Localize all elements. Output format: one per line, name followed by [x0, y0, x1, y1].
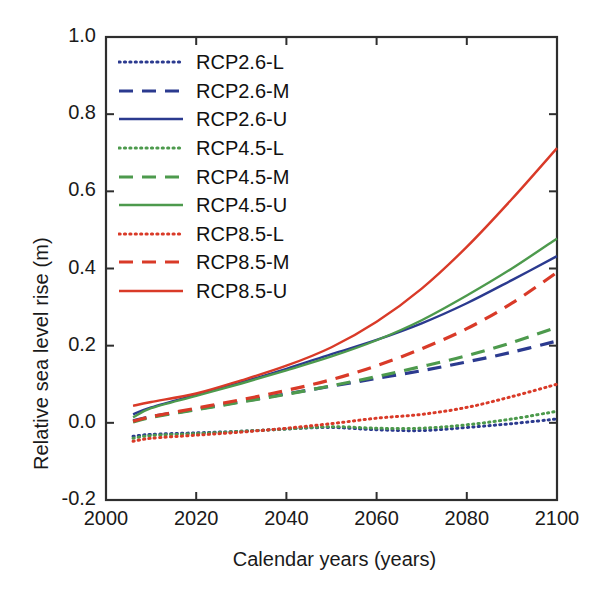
x-tick-label: 2080 [427, 507, 507, 530]
x-tick-label: 2060 [337, 507, 417, 530]
legend-label: RCP2.6-M [196, 81, 289, 101]
legend-line-swatch [118, 284, 184, 298]
legend-label: RCP4.5-U [196, 195, 287, 215]
legend-label: RCP4.5-M [196, 167, 289, 187]
x-axis-title: Calendar years (years) [0, 548, 613, 571]
y-tick-label: 0.4 [68, 256, 96, 279]
legend-label: RCP8.5-U [196, 281, 287, 301]
legend-item[interactable]: RCP2.6-L [118, 48, 289, 77]
figure-container: Relative sea level rise (m) Calendar yea… [0, 0, 613, 606]
legend-line-swatch [118, 141, 184, 155]
legend-line-swatch [118, 198, 184, 212]
y-tick-label: 1.0 [68, 24, 96, 47]
y-tick-label: 0.2 [68, 333, 96, 356]
legend-item[interactable]: RCP4.5-U [118, 191, 289, 220]
legend-line-swatch [118, 227, 184, 241]
legend-line-swatch [118, 84, 184, 98]
legend-label: RCP2.6-U [196, 109, 287, 129]
legend-item[interactable]: RCP8.5-U [118, 277, 289, 306]
legend-item[interactable]: RCP2.6-U [118, 105, 289, 134]
legend-item[interactable]: RCP2.6-M [118, 77, 289, 106]
x-tick-label: 2020 [156, 507, 236, 530]
y-tick-label: 0.0 [68, 410, 96, 433]
x-tick-label: 2040 [246, 507, 326, 530]
legend-line-swatch [118, 55, 184, 69]
y-axis-title: Relative sea level rise (m) [30, 237, 53, 470]
x-tick-label: 2100 [517, 507, 597, 530]
y-tick-label: 0.8 [68, 101, 96, 124]
legend-line-swatch [118, 112, 184, 126]
legend-label: RCP8.5-L [196, 224, 284, 244]
x-tick-label: 2000 [66, 507, 146, 530]
legend-item[interactable]: RCP4.5-M [118, 162, 289, 191]
chart-legend: RCP2.6-LRCP2.6-MRCP2.6-URCP4.5-LRCP4.5-M… [118, 48, 289, 305]
legend-line-swatch [118, 170, 184, 184]
legend-item[interactable]: RCP4.5-L [118, 134, 289, 163]
legend-label: RCP4.5-L [196, 138, 284, 158]
legend-label: RCP8.5-M [196, 252, 289, 272]
y-tick-label: 0.6 [68, 178, 96, 201]
legend-line-swatch [118, 255, 184, 269]
legend-item[interactable]: RCP8.5-M [118, 248, 289, 277]
legend-label: RCP2.6-L [196, 52, 284, 72]
legend-item[interactable]: RCP8.5-L [118, 220, 289, 249]
